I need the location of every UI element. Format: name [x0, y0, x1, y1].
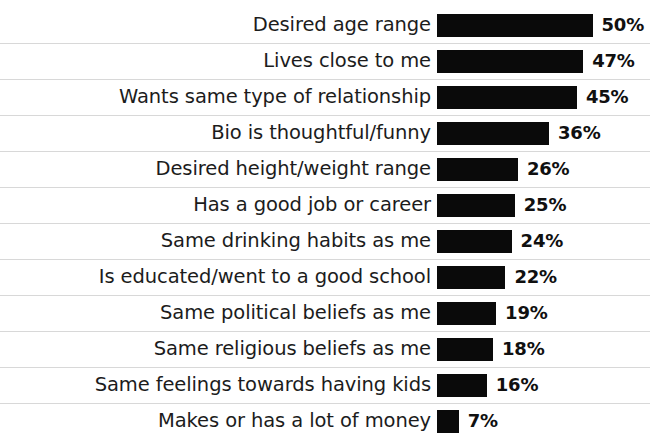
chart-row: Lives close to me 47%: [0, 43, 665, 79]
bar-track: 18%: [437, 331, 665, 367]
row-label: Wants same type of relationship: [0, 87, 437, 107]
bar-value-label: 16%: [496, 376, 538, 394]
chart-row: Wants same type of relationship 45%: [0, 79, 665, 115]
bar-value-label: 26%: [527, 160, 569, 178]
chart-row: Makes or has a lot of money 7%: [0, 403, 665, 439]
bar-value-label: 22%: [514, 268, 556, 286]
bar-track: 16%: [437, 367, 665, 403]
bar-track: 7%: [437, 403, 665, 439]
chart-row: Same religious beliefs as me 18%: [0, 331, 665, 367]
row-label: Has a good job or career: [0, 195, 437, 215]
bar-value-label: 50%: [602, 16, 644, 34]
bar: [437, 158, 518, 181]
bar-value-label: 25%: [524, 196, 566, 214]
horizontal-bar-chart: Desired age range 50% Lives close to me …: [0, 0, 665, 445]
bar: [437, 14, 593, 37]
row-label: Lives close to me: [0, 51, 437, 71]
bar: [437, 302, 496, 325]
bar-track: 22%: [437, 259, 665, 295]
bar-value-label: 19%: [505, 304, 547, 322]
bar-track: 25%: [437, 187, 665, 223]
bar: [437, 122, 549, 145]
bar-value-label: 45%: [586, 88, 628, 106]
bar-value-label: 36%: [558, 124, 600, 142]
row-label: Same political beliefs as me: [0, 303, 437, 323]
bar-track: 24%: [437, 223, 665, 259]
bar: [437, 374, 487, 397]
row-label: Is educated/went to a good school: [0, 267, 437, 287]
bar-value-label: 18%: [502, 340, 544, 358]
bar: [437, 86, 577, 109]
chart-row: Bio is thoughtful/funny 36%: [0, 115, 665, 151]
bar-track: 47%: [437, 43, 665, 79]
row-label: Same religious beliefs as me: [0, 339, 437, 359]
bar-value-label: 24%: [521, 232, 563, 250]
row-label: Desired height/weight range: [0, 159, 437, 179]
chart-row: Desired age range 50%: [0, 7, 665, 43]
bar-track: 19%: [437, 295, 665, 331]
bar: [437, 266, 505, 289]
bar-track: 50%: [437, 7, 665, 43]
chart-row: Same drinking habits as me 24%: [0, 223, 665, 259]
bar: [437, 194, 515, 217]
bar-value-label: 47%: [592, 52, 634, 70]
bar-value-label: 7%: [468, 412, 498, 430]
chart-row: Desired height/weight range 26%: [0, 151, 665, 187]
bar-track: 26%: [437, 151, 665, 187]
row-label: Same feelings towards having kids: [0, 375, 437, 395]
bar: [437, 338, 493, 361]
bar: [437, 50, 583, 73]
bar-track: 36%: [437, 115, 665, 151]
row-label: Same drinking habits as me: [0, 231, 437, 251]
bar-track: 45%: [437, 79, 665, 115]
chart-row: Is educated/went to a good school 22%: [0, 259, 665, 295]
chart-row: Same political beliefs as me 19%: [0, 295, 665, 331]
row-label: Bio is thoughtful/funny: [0, 123, 437, 143]
bar: [437, 230, 512, 253]
row-label: Desired age range: [0, 15, 437, 35]
chart-row: Has a good job or career 25%: [0, 187, 665, 223]
chart-row: Same feelings towards having kids 16%: [0, 367, 665, 403]
row-label: Makes or has a lot of money: [0, 411, 437, 431]
bar: [437, 410, 459, 433]
